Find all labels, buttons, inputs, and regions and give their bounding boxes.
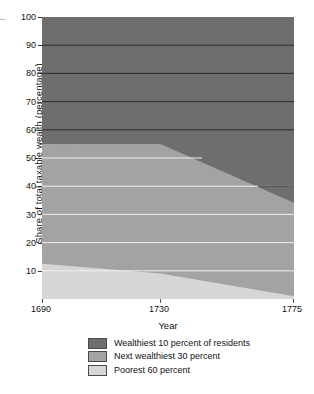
- x-axis-label: Year: [42, 320, 294, 331]
- y-tick-label-50: 50: [0, 154, 36, 163]
- x-tick-mark: [42, 299, 43, 303]
- x-tick-label-1775: 1775: [282, 305, 302, 314]
- y-tick-label-20: 20: [0, 239, 36, 248]
- stacked-area-svg: [42, 17, 294, 299]
- plot-area: [42, 17, 294, 299]
- y-tick-label-70: 70: [0, 98, 36, 107]
- x-tick-label-1690: 1690: [31, 305, 51, 314]
- legend-item-poorest-60: Poorest 60 percent: [88, 364, 298, 376]
- y-tick-label-30: 30: [0, 211, 36, 220]
- legend-item-next-wealthiest-30: Next wealthiest 30 percent: [88, 351, 298, 363]
- y-tick-label-90: 90: [0, 41, 36, 50]
- legend-swatch-icon: [88, 338, 107, 349]
- x-tick-mark: [160, 299, 161, 303]
- legend-label: Next wealthiest 30 percent: [114, 352, 220, 361]
- y-tick-label-60: 60: [0, 126, 36, 135]
- x-tick-mark: [293, 299, 294, 303]
- legend-label: Wealthiest 10 percent of residents: [114, 339, 250, 348]
- legend-label: Poorest 60 percent: [114, 366, 190, 375]
- legend-swatch-icon: [88, 365, 107, 376]
- chart-legend: Wealthiest 10 percent of residents Next …: [88, 337, 298, 378]
- legend-item-wealthiest-10: Wealthiest 10 percent of residents: [88, 337, 298, 349]
- x-tick-label-1730: 1730: [149, 305, 169, 314]
- y-tick-label-80: 80: [0, 69, 36, 78]
- chart-figure: Share of total taxable wealth (percentag…: [0, 0, 314, 394]
- y-tick-label-40: 40: [0, 182, 36, 191]
- y-tick-label-10: 10: [0, 267, 36, 276]
- y-tick-label-100: 100: [0, 13, 36, 22]
- legend-swatch-icon: [88, 351, 107, 362]
